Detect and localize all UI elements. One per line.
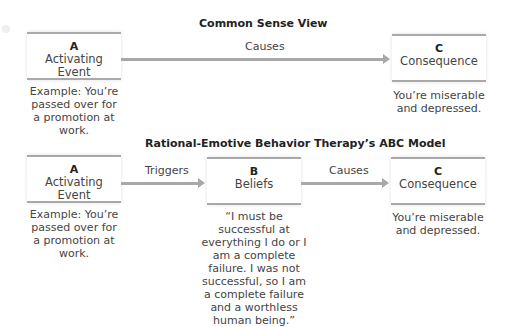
box-name: Beliefs [207,178,301,191]
top-diagram-title: Common Sense View [199,17,328,30]
bottom-caption-activating-event: Example: You’re passed over for a promot… [27,208,121,260]
decorative-dot [2,25,10,33]
bottom-arrow-triggers [121,182,201,185]
bottom-box-beliefs: B Beliefs [207,157,301,205]
top-box-activating-event: A Activating Event [27,32,121,80]
top-arrow-causes [121,58,386,61]
top-box-consequence: C Consequence [392,34,486,82]
top-caption-consequence: You’re miserable and depressed. [392,89,486,115]
bottom-caption-consequence: You’re miserable and depressed. [391,211,485,237]
arrow-head-icon [382,178,389,188]
arrow-head-icon [383,54,390,64]
box-name: Consequence [391,178,485,191]
bottom-diagram-title: Rational-Emotive Behavior Therapy’s ABC … [145,137,446,150]
top-arrow-label-causes: Causes [245,40,285,53]
box-name: Consequence [392,55,486,68]
bottom-box-activating-event: A Activating Event [27,155,121,203]
arrow-head-icon [198,178,205,188]
bottom-box-consequence: C Consequence [391,157,485,205]
bottom-arrow-causes [301,182,385,185]
bottom-arrow-label-causes: Causes [329,164,369,177]
box-name: Activating Event [27,53,121,79]
bottom-caption-beliefs: “I must be successful at everything I do… [201,210,307,327]
bottom-arrow-label-triggers: Triggers [145,164,189,177]
box-name: Activating Event [27,176,121,202]
top-caption-activating-event: Example: You’re passed over for a promot… [27,85,121,137]
